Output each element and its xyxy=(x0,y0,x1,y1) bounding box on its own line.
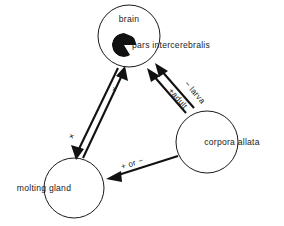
edge-label-corpora-allata-to-molting-gland: + or − xyxy=(120,156,145,172)
node-label-molting-gland: molting gland xyxy=(17,183,71,193)
edge-pars-to-molting-gland xyxy=(71,68,118,160)
edge-label-pars-to-molting-gland: + xyxy=(67,129,77,142)
node-label-corpora-allata: corpora allata xyxy=(204,137,260,147)
endocrine-diagram: brain pars intercerebralis molting gland… xyxy=(0,0,284,226)
node-label-pars-intercerebralis: pars intercerebralis xyxy=(132,40,210,50)
node-label-brain: brain xyxy=(119,14,139,24)
diagram-canvas: brain pars intercerebralis molting gland… xyxy=(0,0,284,226)
edge-molting-gland-to-pars xyxy=(83,66,128,158)
